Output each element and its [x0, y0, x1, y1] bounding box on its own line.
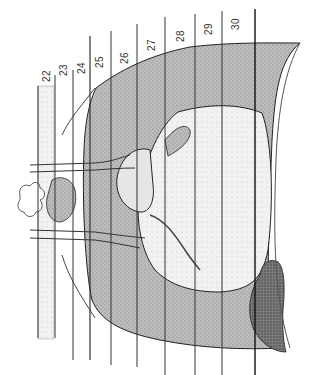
level-label-29: 29 — [203, 23, 214, 35]
level-label-30: 30 — [230, 18, 241, 30]
level-label-26: 26 — [119, 52, 130, 64]
level-label-28: 28 — [175, 30, 186, 42]
anatomical-diagram — [0, 0, 320, 375]
level-label-24: 24 — [76, 62, 87, 74]
level-label-23: 23 — [58, 64, 69, 76]
level-label-27: 27 — [146, 39, 157, 51]
level-label-25: 25 — [94, 56, 105, 68]
level-label-22: 22 — [41, 70, 52, 82]
thyroid-cluster — [47, 178, 76, 222]
